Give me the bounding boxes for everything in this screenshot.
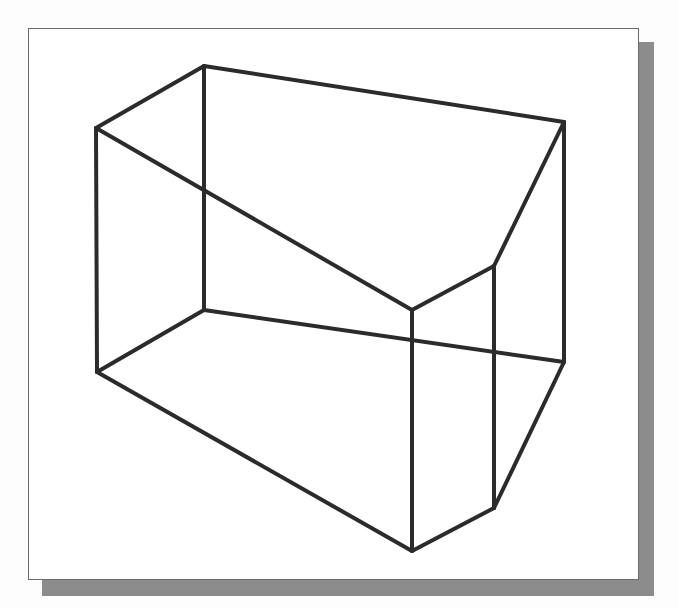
bottom-back-edge <box>204 310 564 362</box>
figure-page <box>0 0 679 608</box>
wireframe-block-drawing <box>0 0 679 608</box>
top-front-edge <box>96 128 412 310</box>
bottom-chamfer-edge <box>412 508 494 551</box>
top-back-edge <box>204 66 564 122</box>
bottom-left-edge <box>97 310 204 372</box>
top-chamfer-edge <box>412 266 494 310</box>
bottom-front-edge <box>97 372 412 551</box>
vertical-front-left-edge <box>96 128 97 372</box>
bottom-right-edge <box>494 362 564 508</box>
top-left-edge <box>96 66 204 128</box>
top-right-edge <box>494 122 564 266</box>
